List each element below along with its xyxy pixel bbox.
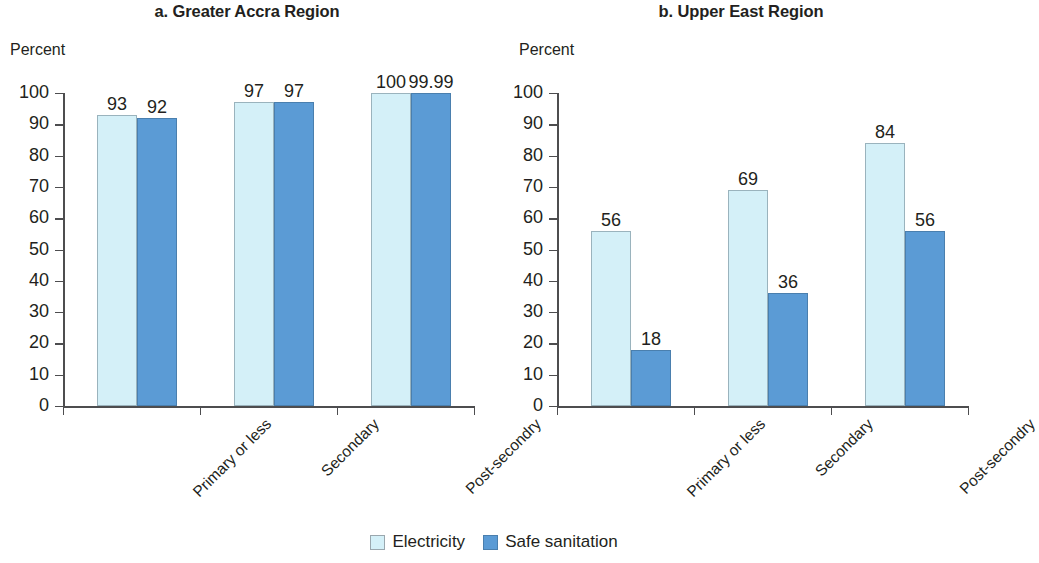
panel-b-unit-label: Percent bbox=[519, 41, 574, 59]
panel-b-ytick-50: 50 bbox=[549, 250, 557, 251]
panel-a-xtick-3 bbox=[474, 406, 475, 415]
panel-a-y-axis bbox=[63, 93, 65, 406]
bar-sanitation-secondary-b: 36 bbox=[768, 293, 808, 406]
panel-b-ytick-20: 20 bbox=[549, 343, 557, 344]
panel-b-ytick-70: 70 bbox=[549, 187, 557, 188]
panel-b-ytick-80: 80 bbox=[549, 156, 557, 157]
panel-b-ytick-label-40: 40 bbox=[523, 270, 543, 290]
panel-a-category-label-0: Primary or less bbox=[189, 415, 275, 501]
panel-a-xtick-1 bbox=[200, 406, 201, 415]
bar-electricity-primary-b: 56 bbox=[591, 231, 631, 406]
panel-b-xtick-3 bbox=[968, 406, 969, 415]
panel-b-category-label-0: Primary or less bbox=[683, 415, 769, 501]
panel-b-ytick-60: 60 bbox=[549, 218, 557, 219]
panel-b-ytick-label-60: 60 bbox=[523, 207, 543, 227]
panel-a-ytick-20: 20 bbox=[55, 343, 63, 344]
panel-b-ytick-label-50: 50 bbox=[523, 239, 543, 259]
bar-sanitation-primary-a: 92 bbox=[137, 118, 177, 406]
legend-swatch-safe-sanitation-icon bbox=[483, 535, 498, 550]
panel-a-ytick-30: 30 bbox=[55, 312, 63, 313]
bar-value-electricity-secondary-a: 97 bbox=[244, 81, 264, 101]
legend-label-safe-sanitation: Safe sanitation bbox=[505, 532, 617, 552]
legend-item-electricity: Electricity bbox=[370, 532, 465, 552]
bar-value-sanitation-secondary-a: 97 bbox=[284, 81, 304, 101]
chart-legend: Electricity Safe sanitation bbox=[0, 532, 988, 552]
panel-a-ytick-60: 60 bbox=[55, 218, 63, 219]
panel-a-ytick-label-70: 70 bbox=[29, 176, 49, 196]
panel-b-x-axis bbox=[557, 406, 969, 408]
panel-greater-accra: a. Greater Accra Region Percent 100 90 8… bbox=[0, 0, 494, 530]
panel-a-ytick-label-50: 50 bbox=[29, 239, 49, 259]
bar-value-electricity-postsecondary-b: 84 bbox=[875, 122, 895, 142]
bar-value-sanitation-primary-b: 18 bbox=[641, 329, 661, 349]
panel-b-ytick-30: 30 bbox=[549, 312, 557, 313]
panel-a-ytick-label-90: 90 bbox=[29, 113, 49, 133]
panel-b-ytick-label-30: 30 bbox=[523, 301, 543, 321]
panel-a-ytick-80: 80 bbox=[55, 156, 63, 157]
panel-a-ytick-40: 40 bbox=[55, 281, 63, 282]
panel-b-ytick-0: 0 bbox=[549, 406, 557, 407]
panel-b-ytick-label-90: 90 bbox=[523, 113, 543, 133]
legend-item-safe-sanitation: Safe sanitation bbox=[483, 532, 617, 552]
panel-a-unit-label: Percent bbox=[10, 41, 65, 59]
panel-a-ytick-label-0: 0 bbox=[39, 395, 49, 415]
panel-a-ytick-70: 70 bbox=[55, 187, 63, 188]
panel-a-xtick-0 bbox=[63, 406, 64, 415]
legend-label-electricity: Electricity bbox=[392, 532, 465, 552]
panel-b-title: b. Upper East Region bbox=[494, 2, 988, 21]
panel-a-ytick-label-30: 30 bbox=[29, 301, 49, 321]
panel-b-ytick-40: 40 bbox=[549, 281, 557, 282]
bar-electricity-secondary-a: 97 bbox=[234, 102, 274, 406]
panel-b-ytick-label-70: 70 bbox=[523, 176, 543, 196]
bar-sanitation-postsecondary-b: 56 bbox=[905, 231, 945, 406]
bar-value-sanitation-secondary-b: 36 bbox=[778, 272, 798, 292]
panel-b-xtick-0 bbox=[557, 406, 558, 415]
panels-container: a. Greater Accra Region Percent 100 90 8… bbox=[0, 0, 988, 530]
bar-electricity-postsecondary-b: 84 bbox=[865, 143, 905, 406]
panel-upper-east: b. Upper East Region Percent 100 90 80 7… bbox=[494, 0, 988, 530]
panel-a-ytick-label-80: 80 bbox=[29, 145, 49, 165]
panel-b-ytick-label-20: 20 bbox=[523, 332, 543, 352]
panel-b-ytick-label-0: 0 bbox=[533, 395, 543, 415]
bar-electricity-primary-a: 93 bbox=[97, 115, 137, 406]
bar-value-electricity-primary-a: 93 bbox=[107, 94, 127, 114]
bar-electricity-postsecondary-a: 100 bbox=[371, 93, 411, 406]
panel-a-ytick-90: 90 bbox=[55, 124, 63, 125]
panel-b-ytick-label-10: 10 bbox=[523, 364, 543, 384]
panel-b-xtick-2 bbox=[831, 406, 832, 415]
panel-a-category-label-1: Secondary bbox=[318, 415, 383, 480]
panel-b-plot-area: 100 90 80 70 60 50 40 30 20 10 0 56 bbox=[557, 93, 969, 406]
bar-value-sanitation-postsecondary-a: 99.99 bbox=[408, 72, 453, 92]
panel-a-ytick-label-20: 20 bbox=[29, 332, 49, 352]
panel-b-ytick-100: 100 bbox=[549, 93, 557, 94]
panel-b-ytick-90: 90 bbox=[549, 124, 557, 125]
panel-b-category-label-2: Post-secondry bbox=[956, 415, 1039, 498]
panel-a-x-axis bbox=[63, 406, 475, 408]
panel-a-xtick-2 bbox=[337, 406, 338, 415]
panel-a-ytick-label-60: 60 bbox=[29, 207, 49, 227]
bar-sanitation-primary-b: 18 bbox=[631, 350, 671, 406]
panel-b-ytick-label-80: 80 bbox=[523, 145, 543, 165]
panel-b-ytick-label-100: 100 bbox=[513, 82, 543, 102]
legend-swatch-electricity-icon bbox=[370, 535, 385, 550]
panel-a-ytick-50: 50 bbox=[55, 250, 63, 251]
panel-a-title: a. Greater Accra Region bbox=[0, 2, 494, 21]
panel-b-ytick-10: 10 bbox=[549, 375, 557, 376]
bar-value-electricity-secondary-b: 69 bbox=[738, 169, 758, 189]
panel-b-xtick-1 bbox=[694, 406, 695, 415]
bar-value-electricity-postsecondary-a: 100 bbox=[376, 72, 406, 92]
bar-value-sanitation-postsecondary-b: 56 bbox=[915, 210, 935, 230]
panel-a-plot-area: 100 90 80 70 60 50 40 30 20 10 0 93 bbox=[63, 93, 475, 406]
panel-a-ytick-0: 0 bbox=[55, 406, 63, 407]
bar-sanitation-secondary-a: 97 bbox=[274, 102, 314, 406]
bar-value-electricity-primary-b: 56 bbox=[601, 210, 621, 230]
panel-a-ytick-100: 100 bbox=[55, 93, 63, 94]
bar-electricity-secondary-b: 69 bbox=[728, 190, 768, 406]
bar-value-sanitation-primary-a: 92 bbox=[147, 97, 167, 117]
panel-a-ytick-label-40: 40 bbox=[29, 270, 49, 290]
panel-a-ytick-10: 10 bbox=[55, 375, 63, 376]
bar-sanitation-postsecondary-a: 99.99 bbox=[411, 93, 451, 406]
panel-a-ytick-label-100: 100 bbox=[19, 82, 49, 102]
panel-a-ytick-label-10: 10 bbox=[29, 364, 49, 384]
